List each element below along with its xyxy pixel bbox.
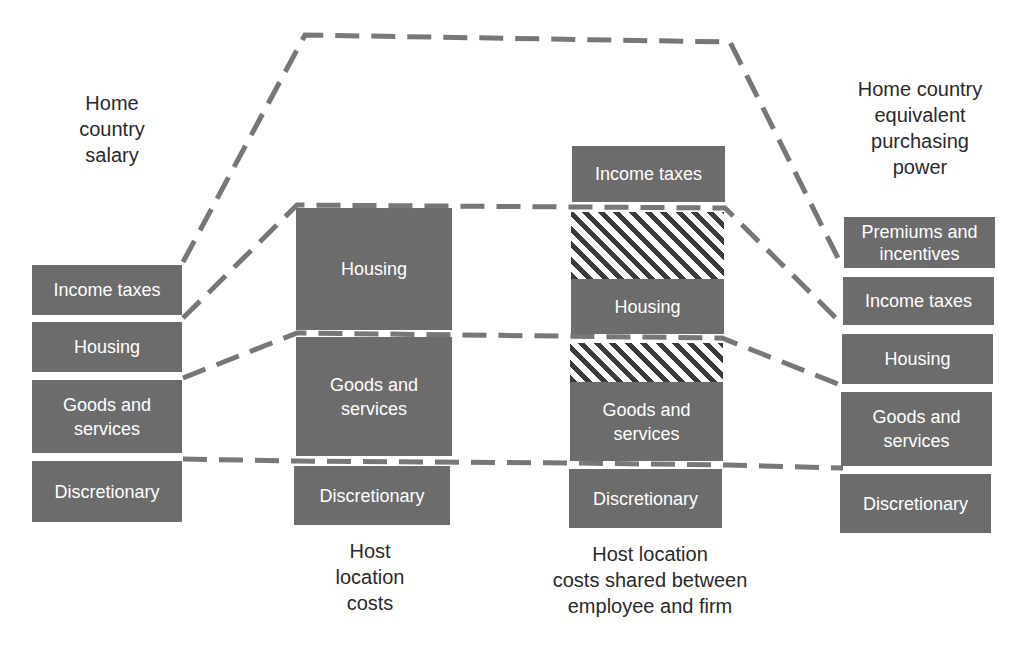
label-line: equivalent <box>840 102 1000 128</box>
block-goods-and-services: Goods and services <box>570 382 723 461</box>
column-label-home-equivalent-purchasing-power: Home country equivalent purchasing power <box>840 76 1000 180</box>
block-text: services <box>883 429 949 453</box>
label-line: location <box>310 564 430 590</box>
block-income-taxes: Income taxes <box>843 277 994 325</box>
label-line: Host <box>310 538 430 564</box>
block-text: incentives <box>879 243 959 265</box>
block-text: Goods and <box>330 373 418 397</box>
label-line: Host location <box>535 541 765 567</box>
label-line: power <box>840 154 1000 180</box>
label-line: purchasing <box>840 128 1000 154</box>
block-discretionary: Discretionary <box>294 466 450 525</box>
column-label-host-location-costs: Host location costs <box>310 538 430 616</box>
block-goods-and-services: Goods and services <box>841 392 992 466</box>
label-line: salary <box>52 142 172 168</box>
column-label-home-country-salary: Home country salary <box>52 90 172 168</box>
block-goods-and-services: Goods and services <box>296 337 452 456</box>
block-text: Housing <box>74 335 140 359</box>
block-housing: Housing <box>296 208 452 330</box>
block-goods-and-services: Goods and services <box>32 380 182 453</box>
block-text: Goods and <box>63 393 151 417</box>
block-text: Premiums and <box>861 221 977 243</box>
goods-top-line <box>183 333 843 386</box>
block-premiums-and-incentives: Premiums and incentives <box>844 217 995 268</box>
total-envelope-line <box>183 35 843 268</box>
housing-top-line <box>183 205 843 325</box>
block-income-taxes: Income taxes <box>572 146 725 202</box>
hatched-goods-shared <box>570 343 723 382</box>
block-text: Housing <box>884 347 950 371</box>
column-label-host-costs-shared: Host location costs shared between emplo… <box>535 541 765 619</box>
block-text: services <box>74 417 140 441</box>
label-line: Home country <box>840 76 1000 102</box>
block-text: Income taxes <box>595 162 702 186</box>
hatched-housing-shared <box>571 212 724 279</box>
block-text: Goods and <box>602 398 690 422</box>
discretionary-top-line <box>183 459 843 468</box>
block-discretionary: Discretionary <box>840 474 991 533</box>
block-housing: Housing <box>32 322 182 372</box>
salary-buildup-diagram: Home country salary Income taxes Housing… <box>0 0 1025 653</box>
block-text: Housing <box>341 257 407 281</box>
block-housing: Housing <box>842 334 993 384</box>
label-line: costs shared between <box>535 567 765 593</box>
label-line: costs <box>310 590 430 616</box>
label-line: country <box>52 116 172 142</box>
block-discretionary: Discretionary <box>569 469 722 528</box>
block-text: Discretionary <box>593 487 698 511</box>
block-text: Income taxes <box>53 278 160 302</box>
block-text: Discretionary <box>319 484 424 508</box>
block-text: services <box>341 397 407 421</box>
block-text: Discretionary <box>54 480 159 504</box>
label-line: Home <box>52 90 172 116</box>
block-text: services <box>613 422 679 446</box>
block-discretionary: Discretionary <box>32 461 182 522</box>
block-text: Income taxes <box>865 289 972 313</box>
block-text: Discretionary <box>863 492 968 516</box>
label-line: employee and firm <box>535 593 765 619</box>
block-housing: Housing <box>571 279 724 334</box>
block-income-taxes: Income taxes <box>32 265 182 315</box>
block-text: Goods and <box>872 405 960 429</box>
block-text: Housing <box>614 295 680 319</box>
